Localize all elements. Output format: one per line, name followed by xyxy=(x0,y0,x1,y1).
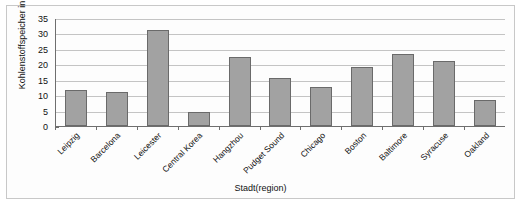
y-tick-label: 0 xyxy=(43,123,48,132)
bar-hangzhou[interactable] xyxy=(229,57,251,126)
x-tick-label: Syracuse xyxy=(419,131,450,162)
y-tick-label: 15 xyxy=(38,76,48,85)
x-tick-label: Baltimore xyxy=(377,131,408,162)
plot-area xyxy=(55,19,505,127)
bar-slot xyxy=(260,19,301,126)
bar-slot xyxy=(383,19,424,126)
x-axis-title: Stadt(region) xyxy=(0,183,521,193)
chart-container: Kohlenstoffspeicher in tC/ha 0 5 10 15 2… xyxy=(0,0,521,207)
x-label-slot: Oakland xyxy=(464,129,505,181)
bar-slot xyxy=(97,19,138,126)
bar-barcelona[interactable] xyxy=(106,92,128,126)
y-axis-ticks: 0 5 10 15 20 25 30 35 xyxy=(22,19,48,127)
bar-slot xyxy=(464,19,505,126)
y-tick-label: 25 xyxy=(38,45,48,54)
y-tick-label: 30 xyxy=(38,30,48,39)
bar-slot xyxy=(178,19,219,126)
bar-oakland[interactable] xyxy=(474,100,496,126)
x-label-slot: Pudget Sound xyxy=(260,129,301,181)
bar-syracuse[interactable] xyxy=(433,61,455,126)
y-tick-label: 35 xyxy=(38,15,48,24)
x-tick-label: Boston xyxy=(343,131,368,156)
x-label-slot: Chicago xyxy=(300,129,341,181)
bar-boston[interactable] xyxy=(351,67,373,126)
bar-chicago[interactable] xyxy=(310,87,332,126)
x-tick-label: Chicago xyxy=(299,131,327,159)
bar-slot xyxy=(423,19,464,126)
bar-leicester[interactable] xyxy=(147,30,169,126)
y-tick-label: 20 xyxy=(38,61,48,70)
bar-slot xyxy=(138,19,179,126)
x-tick-label: Leicester xyxy=(133,131,163,161)
bar-slot xyxy=(342,19,383,126)
x-label-slot: Syracuse xyxy=(423,129,464,181)
x-tick-label: Leipzig xyxy=(56,131,81,156)
bar-slot xyxy=(301,19,342,126)
y-tick-label: 10 xyxy=(38,92,48,101)
bar-leipzig[interactable] xyxy=(65,90,87,126)
bar-slot xyxy=(219,19,260,126)
y-tick-label: 5 xyxy=(43,107,48,116)
bar-baltimore[interactable] xyxy=(392,54,414,126)
bar-series xyxy=(56,19,505,126)
x-label-slot: Barcelona xyxy=(96,129,137,181)
bar-central-korea[interactable] xyxy=(188,112,210,126)
x-tick-label: Oakland xyxy=(462,131,490,159)
bar-slot xyxy=(56,19,97,126)
x-axis-labels: Leipzig Barcelona Leicester Central Kore… xyxy=(55,129,505,181)
bar-pudget-sound[interactable] xyxy=(269,78,291,126)
